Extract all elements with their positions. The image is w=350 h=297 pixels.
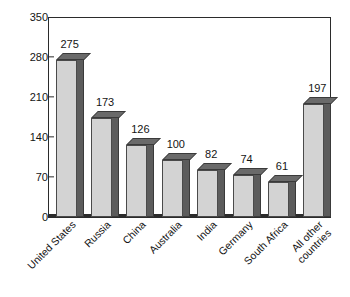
x-tick-label-line: China (121, 219, 149, 247)
y-tick-mark (48, 96, 54, 97)
x-tick-label: Australia (147, 219, 184, 256)
bar-front-face (197, 170, 218, 217)
bar-top-face (268, 175, 303, 182)
x-tick-label: India (195, 219, 219, 243)
bar-7[interactable]: 61 (268, 175, 296, 217)
bar-value-label: 275 (49, 38, 91, 50)
y-tick-mark (48, 176, 54, 177)
bar-5[interactable]: 82 (197, 163, 225, 217)
x-axis-labels: United StatesRussiaChinaAustraliaIndiaGe… (48, 219, 350, 297)
bar-top-face (91, 111, 126, 118)
bar-side-face (254, 168, 261, 217)
bar-side-face (147, 138, 154, 217)
x-tick-label-line: Russia (82, 219, 113, 250)
bar-side-face (112, 111, 119, 217)
bar-front-face (268, 182, 289, 217)
bar-3[interactable]: 126 (126, 138, 154, 217)
bar-front-face (303, 104, 324, 217)
bar-value-label: 61 (261, 160, 303, 172)
y-tick-mark (48, 56, 54, 57)
bar-value-label: 173 (84, 96, 126, 108)
bar-front-face (233, 175, 254, 217)
y-tick-label: 280 (8, 51, 48, 63)
y-tick-label: 210 (8, 91, 48, 103)
x-tick-label: China (121, 219, 149, 247)
bar-6[interactable]: 74 (233, 168, 261, 217)
bar-side-face (183, 153, 190, 217)
bar-front-face (56, 60, 77, 217)
bar-front-face (126, 145, 147, 217)
bar-value-label: 197 (296, 82, 338, 94)
y-tick-label: 0 (8, 211, 48, 223)
y-tick-mark (48, 136, 54, 137)
bar-4[interactable]: 100 (162, 153, 190, 217)
bar-front-face (162, 160, 183, 217)
y-tick-label: 350 (8, 11, 48, 23)
bar-side-face (77, 53, 84, 217)
bar-value-label: 126 (119, 123, 161, 135)
bar-2[interactable]: 173 (91, 111, 119, 217)
bars-layer: 275173126100827461197 (48, 17, 331, 217)
x-tick-label: Russia (82, 219, 113, 250)
y-tick-label: 70 (8, 171, 48, 183)
bar-1[interactable]: 275 (56, 53, 84, 217)
x-tick-label-line: India (195, 219, 219, 243)
x-tick-label-line: Australia (147, 219, 184, 256)
bar-side-face (324, 97, 331, 217)
bar-chart-figure: Billion short tons 070140210280350 27517… (0, 0, 350, 297)
bar-front-face (91, 118, 112, 217)
y-tick-label: 140 (8, 131, 48, 143)
x-tick-label: All othercountries (287, 219, 333, 265)
bar-top-face (303, 97, 338, 104)
bar-8[interactable]: 197 (303, 97, 331, 217)
bar-side-face (218, 163, 225, 217)
bar-top-face (56, 53, 91, 60)
